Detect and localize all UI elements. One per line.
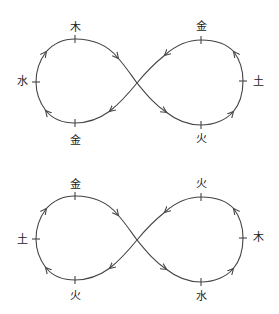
figure-eight-top-curve [0,0,279,157]
figure-eight-bottom: 金 土 火 火 木 水 [0,157,279,314]
label-right-right: 木 [251,232,265,244]
figure-eight-top: 木 水 金 金 土 火 [0,0,279,157]
label-left-left: 水 [15,76,29,88]
label-left-left: 土 [15,234,29,246]
label-left-top: 木 [68,22,82,34]
label-right-bottom: 水 [194,291,208,303]
figure-eight-bottom-curve [0,157,279,314]
label-right-top: 金 [194,21,208,33]
label-left-bottom: 火 [68,290,82,302]
label-right-bottom: 火 [194,133,208,145]
label-right-top: 火 [194,178,208,190]
label-right-right: 土 [251,76,265,88]
label-left-bottom: 金 [68,135,82,147]
label-left-top: 金 [68,179,82,191]
